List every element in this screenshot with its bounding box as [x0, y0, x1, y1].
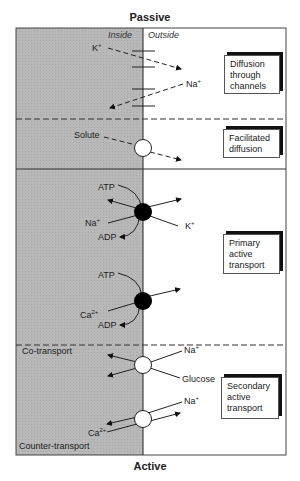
countertransporter-icon	[135, 411, 152, 428]
k-label-pump: K+	[185, 221, 195, 231]
cotransport-label: Co-transport	[22, 346, 72, 356]
na-label-pump: Na+	[85, 218, 100, 228]
co-na-label: Na+	[184, 345, 199, 355]
inside-label: Inside	[108, 30, 132, 40]
label-box-secondary: Secondary active transport	[221, 377, 279, 419]
outside-label: Outside	[148, 30, 179, 40]
label-box-primary: Primary active transport	[223, 234, 280, 274]
counter-na-label: Na+	[184, 396, 199, 406]
cotransporter-icon	[135, 357, 152, 374]
label-box-diffusion: Diffusion through channels	[224, 55, 280, 94]
counter-ca-label: Ca2+	[88, 428, 106, 438]
ion-label-na: Na+	[186, 79, 201, 89]
countertransport-label: Counter-transport	[19, 441, 90, 451]
atp-label-1: ATP	[98, 182, 115, 192]
pump-icon-ca	[134, 292, 152, 310]
ion-label-k: K+	[92, 43, 102, 53]
glucose-label: Glucose	[182, 374, 215, 384]
carrier-icon	[135, 140, 152, 157]
inside-region	[16, 28, 143, 455]
pump-icon-na-k	[134, 203, 152, 221]
adp-label-2: ADP	[98, 320, 117, 330]
adp-label-1: ADP	[98, 232, 117, 242]
atp-label-2: ATP	[98, 270, 115, 280]
arrow-solute-out	[150, 152, 181, 160]
ca-label-pump: Ca2+	[80, 310, 98, 320]
solute-label: Solute	[74, 130, 100, 140]
label-box-facilitated: Facilitated diffusion	[223, 129, 280, 158]
